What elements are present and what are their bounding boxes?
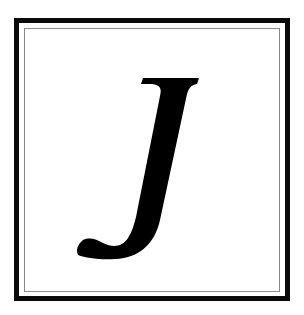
letter-j-shape [77,78,199,259]
letter-j-glyph: J [0,0,304,315]
